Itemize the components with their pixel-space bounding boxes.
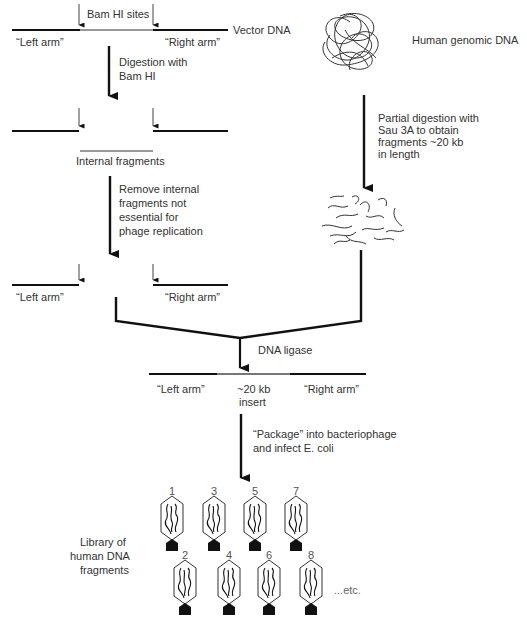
partial-digestion-label-4: in length [378,148,420,161]
remove-label-2: fragments not [119,197,186,210]
genomic-fragments [322,196,404,244]
digestion-label-1: Digestion with [119,56,187,69]
package-label-2: and infect E. coli [253,442,334,455]
remove-label-3: essential for [119,211,178,224]
vector-dna-label: Vector DNA [233,24,290,37]
insert-label-2: insert [239,396,266,409]
genomic-dna-label: Human genomic DNA [412,34,518,47]
library-label-1: Library of [80,536,126,549]
phage-number-1: 1 [165,485,179,497]
remove-label-4: phage replication [119,225,203,238]
recombinant-right-arm-label: “Right arm” [304,383,359,396]
phage-row-1 [161,496,307,551]
genomic-dna-tangle [323,13,378,70]
package-label-1: “Package” into bacteriophage [253,428,397,441]
phage-number-8: 8 [304,549,318,561]
phage-number-6: 6 [262,549,276,561]
cut-vector [12,108,228,151]
etc-label: ...etc. [334,584,361,597]
dna-ligase-label: DNA ligase [258,344,312,357]
recombinant-left-arm-label: “Left arm” [157,383,205,396]
arms2-left-label: “Left arm” [16,291,64,304]
phage-number-2: 2 [178,549,192,561]
digestion-label-2: Bam HI [119,70,156,83]
arms2-right-label: “Right arm” [165,291,220,304]
join-lines [116,250,361,338]
phage-number-7: 7 [289,485,303,497]
internal-fragments-label: Internal fragments [76,155,165,168]
library-label-3: fragments [80,564,129,577]
right-arm-label: “Right arm” [165,36,220,49]
diagram-canvas [0,0,527,621]
phage-row-2 [174,560,322,615]
left-arm-label: “Left arm” [16,36,64,49]
phage-number-5: 5 [248,485,262,497]
insert-label-1: ~20 kb [237,383,270,396]
phage-number-3: 3 [207,485,221,497]
library-label-2: human DNA [70,550,130,563]
vector-arms [12,264,228,285]
bamhi-sites-label: Bam HI sites [87,8,149,21]
phage-number-4: 4 [222,549,236,561]
remove-label-1: Remove internal [119,183,199,196]
